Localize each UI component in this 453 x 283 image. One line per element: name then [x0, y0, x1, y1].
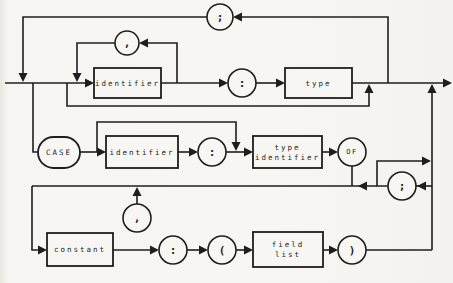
node-case-label: CASE — [46, 148, 72, 157]
arrow-bypass-merge — [365, 84, 374, 93]
arrow-tag-bypass-merge — [232, 142, 241, 151]
node-of-label: OF — [346, 148, 357, 156]
node-field-list-label: field — [272, 240, 305, 249]
arrow-into-type-identifier — [244, 148, 253, 157]
arrow-into-colon-1 — [219, 79, 228, 88]
node-semicolon-right-label: ; — [399, 180, 406, 193]
edge-case-drop — [33, 83, 38, 152]
arrow-into-open-paren — [199, 246, 208, 255]
node-identifier-2-label: identifier — [109, 148, 174, 157]
node-constant-label: constant — [54, 245, 106, 254]
arrow-variant-exit-merge — [428, 84, 437, 93]
node-comma-bottom-label: , — [134, 212, 141, 225]
node-colon-1-label: : — [239, 77, 246, 90]
node-close-paren-label: ) — [349, 244, 356, 257]
arrow-exit-arrow — [443, 79, 452, 88]
railroad-diagram-canvas: ;,identifier:typeCASEidentifier:typeiden… — [0, 0, 453, 283]
arrow-variant-exit-arrow — [422, 157, 431, 166]
arrow-into-semicolon-right — [417, 182, 426, 191]
arrow-into-identifier-1 — [85, 79, 94, 88]
node-field-list-label: list — [275, 250, 301, 259]
node-colon-3-label: : — [170, 244, 177, 257]
arrow-into-close-paren — [329, 246, 338, 255]
edge-variant-entry-drop — [32, 186, 39, 250]
arrow-into-colon-2 — [189, 148, 198, 157]
node-semicolon-top-label: ; — [217, 11, 224, 24]
node-colon-2-label: : — [209, 146, 216, 159]
node-type-label: type — [305, 79, 331, 88]
node-open-paren-label: ( — [219, 244, 226, 257]
railroad-diagram: ;,identifier:typeCASEidentifier:typeiden… — [0, 0, 453, 283]
arrow-comma-bottom-merge — [133, 187, 142, 196]
arrow-into-of — [329, 148, 338, 157]
node-identifier-1-label: identifier — [95, 79, 160, 88]
node-type-identifier-label: identifier — [255, 153, 320, 162]
arrow-into-field-list — [244, 246, 253, 255]
arrow-semicolon-loop-merge — [19, 73, 28, 82]
arrow-into-constant — [38, 246, 47, 255]
arrow-into-identifier-2 — [97, 148, 106, 157]
arrow-into-type — [276, 79, 285, 88]
arrow-into-colon-3 — [150, 246, 159, 255]
arrow-into-semicolon-top — [233, 13, 242, 22]
arrow-into-comma-top — [139, 39, 148, 48]
node-type-identifier-label: type — [274, 143, 300, 152]
arrow-comma-loop-merge — [73, 73, 82, 82]
arrow-variant-return-arrow — [358, 182, 367, 191]
node-comma-top-label: , — [124, 37, 131, 50]
